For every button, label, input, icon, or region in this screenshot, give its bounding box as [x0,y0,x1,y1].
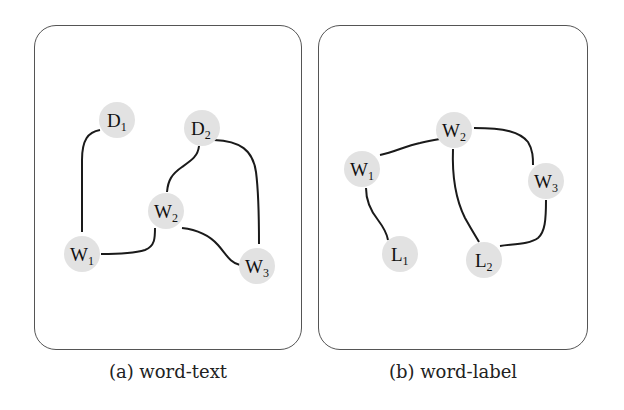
node-w3: W3 [239,248,275,284]
node-l1: L1 [382,236,418,272]
graph-canvas: D1 D2 W2 W1 W3 W2 W1 W3 L1 [0,0,624,410]
node-w2: W2 [436,112,472,148]
node-w1: W1 [64,236,100,272]
node-d1: D1 [99,102,135,138]
edge-w2-l2 [453,149,479,242]
edge-w1-w2 [101,228,155,254]
edge-w3-l2 [500,200,546,246]
caption-word-text: (a) word-text [34,361,302,382]
edge-w2-d2 [167,146,199,192]
edge-d2-w3 [214,140,259,244]
node-w2: W2 [148,193,184,229]
edge-w1-l1 [366,188,388,240]
edge-w1-w2 [380,139,440,155]
edge-w2-w3 [182,228,240,265]
caption-word-label: (b) word-label [318,361,588,382]
edge-w2-w3 [474,128,533,165]
edge-d1-w1 [82,130,100,232]
node-w3: W3 [528,163,564,199]
node-l2: L2 [466,242,502,278]
node-d2: D2 [184,110,220,146]
node-w1: W1 [344,151,380,187]
